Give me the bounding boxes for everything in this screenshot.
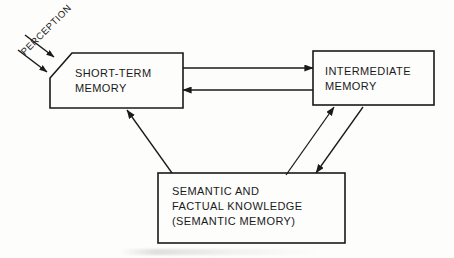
- intermediate-memory-label-line-1: INTERMEDIATE: [325, 64, 411, 79]
- memory-systems-diagram: PERCEPTION SHORT-TERM MEMORY INTERMEDIAT…: [0, 0, 454, 258]
- short-term-memory-label-line-2: MEMORY: [75, 81, 152, 96]
- semantic-memory-label-line-2: FACTUAL KNOWLEDGE: [172, 199, 302, 214]
- semantic-memory-label-line-3: (SEMANTIC MEMORY): [172, 214, 302, 229]
- short-term-memory-label-line-1: SHORT-TERM: [75, 66, 152, 81]
- semantic-to-stm-arrow: [127, 110, 172, 173]
- semantic-memory-label: SEMANTIC AND FACTUAL KNOWLEDGE (SEMANTIC…: [172, 184, 302, 229]
- semantic-memory-label-line-1: SEMANTIC AND: [172, 184, 302, 199]
- short-term-memory-label: SHORT-TERM MEMORY: [75, 66, 152, 96]
- intermediate-memory-label-line-2: MEMORY: [325, 79, 411, 94]
- im-to-semantic-arrow: [316, 107, 363, 173]
- intermediate-memory-label: INTERMEDIATE MEMORY: [325, 64, 411, 94]
- semantic-to-im-arrow: [286, 107, 334, 175]
